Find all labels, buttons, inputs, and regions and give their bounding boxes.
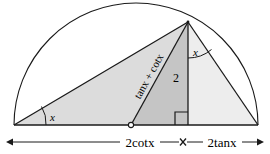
diagram-canvas: x x 2 tanx + cotx 2cotx 2tanx [0,0,270,154]
dimension-divider-tick [180,139,186,146]
midpoint-marker [128,122,133,127]
angle-apex-label: x [192,46,198,58]
altitude-label: 2 [173,71,179,85]
base-right-label: 2tanx [208,135,237,150]
angle-left-label: x [49,111,55,123]
apex-marker [187,21,190,24]
geometry-diagram: x x 2 tanx + cotx 2cotx 2tanx [0,0,270,154]
base-left-label: 2cotx [126,135,155,150]
dimension-arrow-right [257,139,264,146]
dimension-arrow-left [6,139,13,146]
